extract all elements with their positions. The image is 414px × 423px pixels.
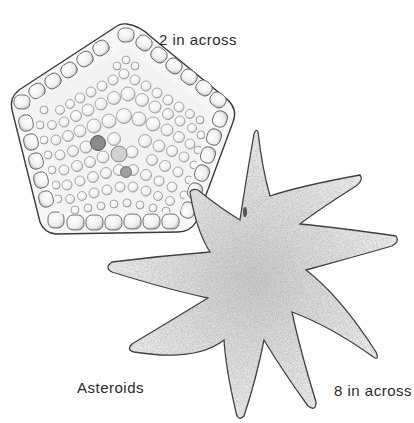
- illustration-canvas: 2 in across Asteroids 8 in across: [0, 0, 414, 423]
- small-specimen-size-label: 2 in across: [159, 31, 237, 48]
- starfish-illustration: [0, 0, 414, 423]
- mouth-slit: [243, 207, 247, 217]
- large-specimen-size-label: 8 in across: [334, 382, 412, 399]
- figure-title-label: Asteroids: [77, 379, 144, 396]
- madreporite: [91, 136, 106, 151]
